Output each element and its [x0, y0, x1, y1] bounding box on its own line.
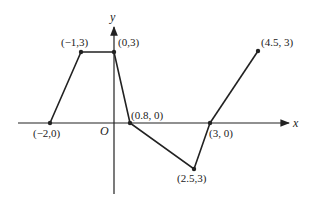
y-axis-label: y	[109, 10, 116, 24]
point-0-3	[112, 50, 116, 54]
graph-canvas: x y O (−2,0) (−1,3) (0,3) (0.8, 0) (2.5,…	[0, 0, 319, 200]
point-neg1-3	[79, 50, 83, 54]
origin-label: O	[100, 124, 109, 138]
label-4.5-3: (4.5, 3)	[261, 36, 293, 49]
label-neg1-3: (−1,3)	[61, 36, 89, 49]
point-0.8-0	[128, 121, 132, 125]
label-0.8-0: (0.8, 0)	[131, 109, 163, 122]
x-axis-label: x	[292, 116, 299, 130]
point-2.5-neg3	[192, 167, 196, 171]
label-0-3: (0,3)	[118, 36, 139, 49]
graph-segment-right	[210, 51, 258, 123]
label-neg2-0: (−2,0)	[33, 127, 61, 140]
graph-segment-left	[50, 52, 210, 169]
label-3-0: (3, 0)	[209, 127, 233, 140]
point-4.5-3	[256, 49, 260, 53]
point-neg2-0	[48, 121, 52, 125]
point-3-0	[208, 121, 212, 125]
label-2.5-3: (2.5,3)	[177, 172, 207, 185]
